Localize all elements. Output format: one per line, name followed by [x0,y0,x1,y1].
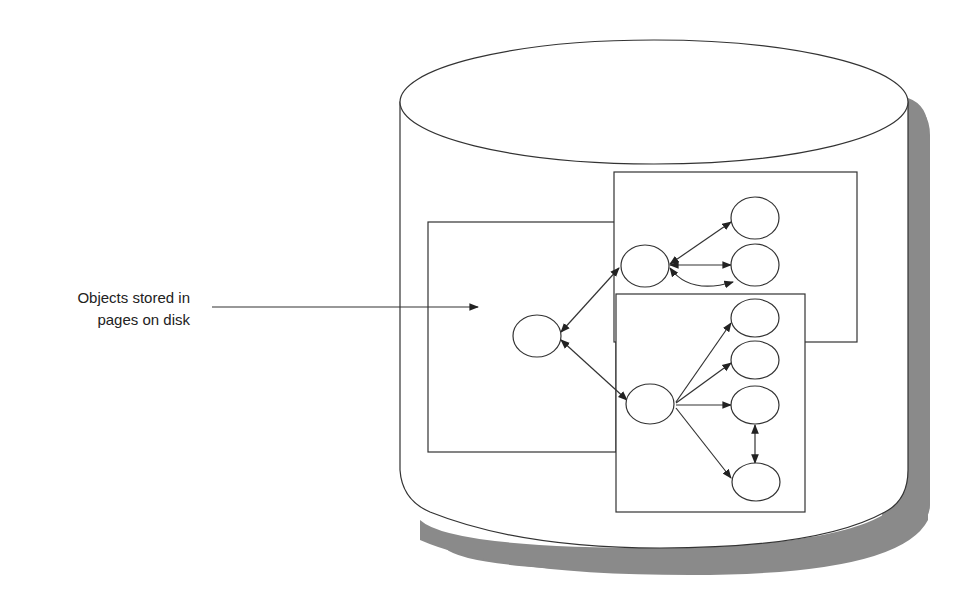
object-node-l1 [731,299,779,337]
object-node-l3 [731,386,779,424]
object-node-l2 [731,341,779,379]
object-node-upper-hub [621,245,669,287]
object-node-l4 [732,463,780,501]
disk-top [400,40,908,164]
callout-line-1: Objects stored in [40,287,190,309]
object-node-root [513,315,561,357]
callout-line-2: pages on disk [40,309,190,331]
object-node-u1 [731,197,779,239]
object-node-lower-hub [626,384,674,424]
callout-label: Objects stored in pages on disk [40,287,190,331]
object-node-u2 [731,244,779,286]
